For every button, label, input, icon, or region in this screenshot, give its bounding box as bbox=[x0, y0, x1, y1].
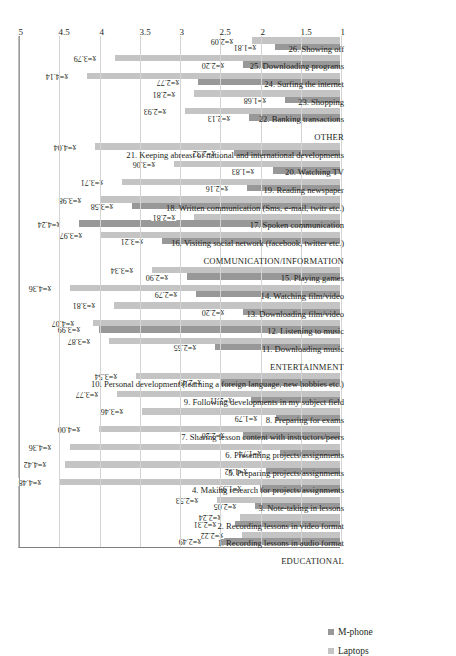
bar-value-label: x̄=4.04 bbox=[53, 143, 78, 151]
bar-value-label: x̄=3.34 bbox=[109, 266, 134, 274]
category-label: 15. Playing games bbox=[44, 274, 344, 283]
bar-value-label: x̄=4.36 bbox=[27, 443, 52, 451]
category-label: 13. Downloading film/video bbox=[44, 310, 344, 319]
bar-value-label: x̄=4.14 bbox=[45, 72, 70, 80]
legend-item: M-phone bbox=[328, 627, 373, 637]
bar-value-label: x̄=4.07 bbox=[51, 319, 76, 327]
category-label: 1. Recording lessons in audio format bbox=[44, 539, 344, 548]
category-label: 22. Banking transactions bbox=[44, 115, 344, 124]
category-label: 21. Keeping abreast of national and inte… bbox=[44, 151, 344, 160]
value-axis-tick: 1 bbox=[341, 28, 369, 37]
value-axis-tick: 4.5 bbox=[59, 28, 87, 37]
category-label: 7. Sharing lesson content with instructo… bbox=[44, 433, 344, 442]
bar-laptop: x̄=2.53 bbox=[217, 497, 340, 503]
bar-value-label: x̄=2.53 bbox=[175, 496, 200, 504]
bar-value-label: x̄=3.81 bbox=[72, 301, 97, 309]
category-label: 3. Note-taking in lessons bbox=[44, 504, 344, 513]
category-label: 6. Presenting projects/assignments bbox=[44, 451, 344, 460]
category-label: 16. Visiting social network (facebook, t… bbox=[44, 239, 344, 248]
value-axis-tick: 5 bbox=[19, 28, 47, 37]
value-axis-tick: 4 bbox=[99, 28, 127, 37]
category-label: 5. Preparing projects/assignments bbox=[44, 469, 344, 478]
section-header-label: EDUCATIONAL bbox=[44, 557, 344, 566]
category-label: 20. Watching TV bbox=[44, 168, 344, 177]
section-header-label: COMMUNICATION/INFORMATION bbox=[44, 257, 344, 266]
category-label: 2. Recording lessons in video format bbox=[44, 522, 344, 531]
value-axis-tick: 3 bbox=[180, 28, 208, 37]
legend: M-phoneLaptops bbox=[328, 627, 373, 656]
category-label: 11. Downloading music bbox=[44, 345, 344, 354]
bar-value-label: x̄=2.81 bbox=[152, 90, 177, 98]
category-label: 25. Downloading programs bbox=[44, 62, 344, 71]
category-label: 18. Written communication (Sms, e-mail, … bbox=[44, 204, 344, 213]
gridline bbox=[19, 36, 20, 547]
bar-value-label: x̄=3.46 bbox=[100, 407, 125, 415]
value-axis-tick: 2.5 bbox=[220, 28, 248, 37]
legend-label: Laptops bbox=[338, 646, 369, 656]
category-label: 24. Surfing the internet bbox=[44, 80, 344, 89]
bar-laptop: x̄=4.04 bbox=[95, 143, 340, 149]
category-label: 26. Showing off bbox=[44, 45, 344, 54]
category-label: 8. Preparing for exams bbox=[44, 416, 344, 425]
category-label: 10. Personal development (learning a for… bbox=[44, 380, 344, 389]
bar-laptop: x̄=3.81 bbox=[114, 302, 340, 308]
bar-laptop: x̄=2.81 bbox=[194, 90, 340, 96]
legend-swatch-laptop-icon bbox=[328, 648, 334, 654]
legend-label: M-phone bbox=[338, 627, 373, 637]
section-header-label: OTHER bbox=[44, 133, 344, 142]
category-label: 14. Watching film/video bbox=[44, 292, 344, 301]
bar-value-label: x̄=2.09 bbox=[210, 37, 235, 45]
bar-value-label: x̄=3.97 bbox=[59, 231, 84, 239]
legend-item: Laptops bbox=[328, 646, 373, 656]
category-label: 17. Spoken communication bbox=[44, 221, 344, 230]
bar-laptop: x̄=2.09 bbox=[252, 37, 340, 43]
bar-laptop: x̄=3.77 bbox=[117, 391, 340, 397]
bar-value-label: x̄=3.77 bbox=[75, 390, 100, 398]
bar-laptop: x̄=2.24 bbox=[240, 514, 340, 520]
bar-value-label: x̄=4.48 bbox=[18, 478, 43, 486]
section-header-label: ENTERTAINMENT bbox=[44, 363, 344, 372]
bar-value-label: x̄=4.36 bbox=[27, 284, 52, 292]
category-label: 4. Making research for projects/assignme… bbox=[44, 486, 344, 495]
bar-laptop: x̄=4.42 bbox=[65, 461, 340, 467]
bar-laptop: x̄=4.36 bbox=[70, 444, 340, 450]
bar-value-label: x̄=4.42 bbox=[22, 460, 47, 468]
value-axis-tick: 3.5 bbox=[139, 28, 167, 37]
category-label: 9. Following developments in my subject … bbox=[44, 398, 344, 407]
value-axis-tick: 2 bbox=[260, 28, 288, 37]
category-label: 12. Listening to music bbox=[44, 327, 344, 336]
bar-laptop: x̄=3.46 bbox=[142, 408, 340, 414]
category-label: 19. Reading newspaper bbox=[44, 186, 344, 195]
bar-value-label: x̄=3.87 bbox=[67, 337, 92, 345]
legend-swatch-mphone-icon bbox=[328, 629, 334, 635]
value-axis-tick: 1.5 bbox=[300, 28, 328, 37]
bar-value-label: x̄=3.98 bbox=[58, 196, 83, 204]
category-label: 23. Shopping bbox=[44, 98, 344, 107]
